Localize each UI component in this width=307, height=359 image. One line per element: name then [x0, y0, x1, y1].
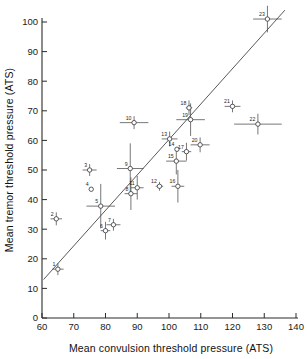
- y-tick-label: 100: [22, 16, 38, 27]
- data-point-label: 9: [125, 161, 128, 167]
- tick-labels-group: 0102030405060708090100607080901001101201…: [22, 16, 304, 332]
- y-tick-label: 10: [27, 283, 38, 294]
- data-point-label: 2: [51, 211, 54, 217]
- data-point-marker: [103, 228, 107, 232]
- x-tick-label: 70: [68, 321, 79, 332]
- regression-line-segment: [44, 10, 285, 279]
- x-tick-label: 80: [100, 321, 111, 332]
- x-tick-label: 100: [161, 321, 177, 332]
- data-point-marker: [111, 223, 115, 227]
- data-point-marker: [128, 166, 132, 170]
- data-point-label: 1: [52, 261, 55, 267]
- data-point-label: 18: [181, 100, 187, 106]
- y-tick-label: 90: [27, 46, 38, 57]
- y-axis-title: Mean tremor threshold pressure (ATS): [3, 68, 15, 252]
- data-point-marker: [230, 104, 234, 108]
- data-point-marker: [265, 17, 269, 21]
- x-tick-label: 110: [193, 321, 208, 332]
- data-point-marker: [187, 106, 191, 110]
- data-point-label: 12: [151, 178, 157, 184]
- data-point-label: 21: [224, 98, 230, 104]
- data-point-label: 20: [192, 137, 198, 143]
- data-point-label: 16: [170, 178, 176, 184]
- y-tick-label: 40: [27, 194, 38, 205]
- data-point-label: 10: [126, 115, 132, 121]
- data-point-marker: [174, 159, 178, 163]
- y-tick-label: 30: [27, 224, 38, 235]
- data-point-marker: [176, 184, 180, 188]
- data-point-marker: [188, 117, 192, 121]
- x-tick-label: 120: [225, 321, 241, 332]
- scatter-chart-figure: 1234567891011121314151617181920212223 01…: [0, 0, 307, 359]
- y-tick-label: 50: [27, 164, 38, 175]
- data-point-label: 7: [108, 217, 111, 223]
- data-point-marker: [184, 149, 188, 153]
- axes-group: [42, 18, 298, 318]
- y-tick-label: 70: [27, 105, 38, 116]
- data-point-label: 6: [100, 223, 103, 229]
- x-tick-label: 60: [37, 321, 48, 332]
- data-point-marker: [198, 143, 202, 147]
- point-labels-group: 1234567891011121314151617181920212223: [51, 11, 265, 267]
- x-tick-label: 90: [132, 321, 143, 332]
- y-tick-label: 60: [27, 135, 38, 146]
- data-point-marker: [132, 120, 136, 124]
- data-point-marker: [135, 186, 139, 190]
- data-point-marker: [157, 184, 161, 188]
- plot-canvas: 1234567891011121314151617181920212223 01…: [0, 0, 307, 359]
- data-point-label: 8: [125, 186, 128, 192]
- data-point-marker: [99, 204, 103, 208]
- data-point-label: 13: [161, 131, 167, 137]
- data-point-label: 23: [259, 11, 265, 17]
- data-point-label: 15: [168, 153, 174, 159]
- data-point-marker: [89, 187, 93, 191]
- data-point-marker: [87, 168, 91, 172]
- x-tick-label: 130: [256, 321, 272, 332]
- regression-line: [44, 10, 285, 279]
- error-bars-group: [51, 6, 282, 275]
- y-tick-label: 80: [27, 76, 38, 87]
- data-point-label: 17: [178, 144, 184, 150]
- x-axis-title: Mean convulsion threshold pressure (ATS): [69, 342, 273, 354]
- data-point-label: 14: [169, 141, 175, 147]
- data-point-label: 11: [129, 180, 134, 186]
- data-point-label: 22: [250, 116, 256, 122]
- data-point-marker: [256, 122, 260, 126]
- y-tick-label: 20: [27, 253, 38, 264]
- data-point-marker: [56, 267, 60, 271]
- data-point-label: 3: [84, 162, 87, 168]
- data-point-marker: [129, 191, 133, 195]
- data-point-label: 19: [182, 112, 188, 118]
- x-tick-label: 140: [288, 321, 304, 332]
- data-point-label: 5: [95, 198, 98, 204]
- data-markers-group: [54, 17, 270, 272]
- data-point-label: 4: [86, 181, 89, 187]
- data-point-marker: [54, 217, 58, 221]
